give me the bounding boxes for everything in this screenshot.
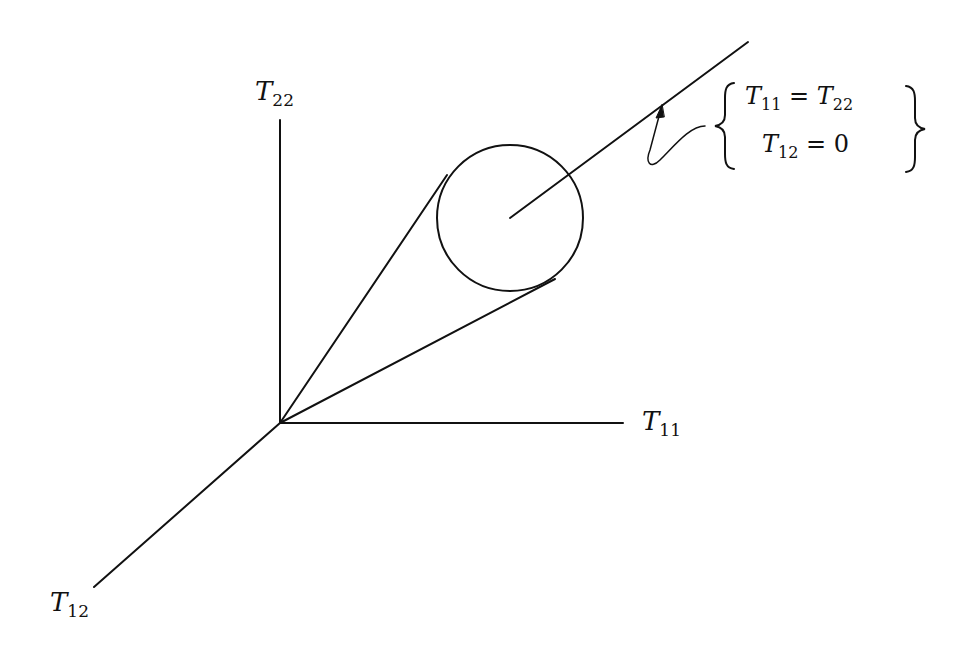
t12-axis [94, 423, 280, 587]
annotation-arrow [648, 105, 705, 165]
t22-axis-label: T22 [255, 78, 294, 109]
hydrostatic-line [510, 42, 748, 218]
t12-axis-label: T12 [50, 589, 89, 620]
cone-upper-tangent [280, 175, 447, 423]
annotation-line-1: T11 = T22 [745, 84, 853, 113]
t11-axis-label: T11 [642, 408, 681, 439]
right-brace [906, 86, 925, 172]
cone-lower-tangent [280, 279, 555, 423]
annotation-line-2: T12 = 0 [762, 132, 849, 161]
left-brace [715, 83, 734, 169]
